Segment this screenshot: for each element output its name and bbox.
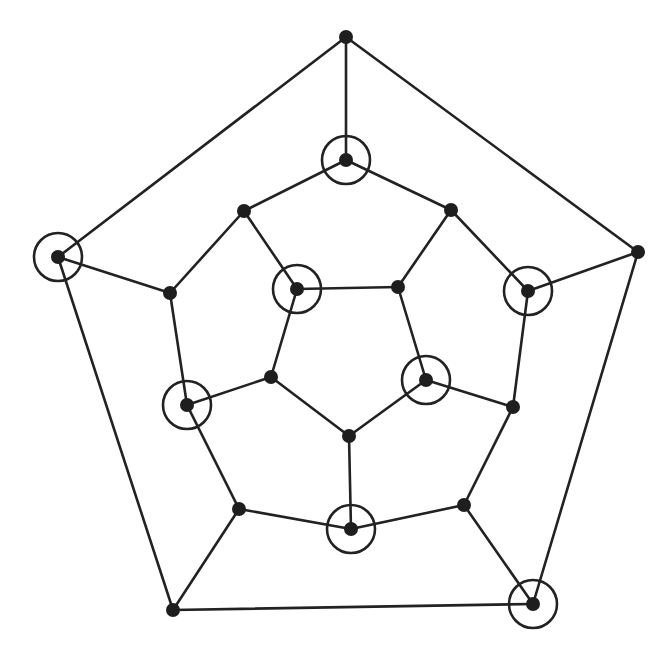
edge-m7-m8 [187,405,239,509]
vertex-m6 [344,522,358,536]
vertex-m3 [521,284,535,298]
edge-m8-m9 [170,293,187,405]
vertex-m2 [444,203,458,217]
vertex-m10 [237,204,251,218]
vertex-i3 [419,373,433,387]
edge-m8-i5 [187,377,271,405]
vertex-i4 [342,429,356,443]
edge-m1-m2 [346,160,451,210]
marked-vertex-rings-layer [34,136,557,628]
edge-i5-i1 [271,289,297,377]
vertex-i2 [391,280,405,294]
edge-o3-o4 [173,604,533,610]
vertex-m1 [339,153,353,167]
edge-m9-m10 [170,211,244,293]
vertex-i5 [264,370,278,384]
edge-m10-i1 [244,211,297,289]
vertex-m5 [457,498,471,512]
edge-m3-m4 [513,291,528,407]
vertex-o4 [166,603,180,617]
edge-o3-m5 [464,505,533,604]
vertex-m9 [163,286,177,300]
edge-i3-i4 [349,380,426,436]
edge-i1-i2 [297,287,398,289]
edge-o4-m7 [173,509,239,610]
edge-i4-i5 [271,377,349,436]
edge-o5-o1 [58,37,346,257]
edge-m2-i2 [398,210,451,287]
vertex-m4 [506,400,520,414]
edge-m2-m3 [451,210,528,291]
edge-m10-m1 [244,160,346,211]
dodecahedron-graph-diagram [0,0,671,652]
vertex-o2 [631,245,645,259]
edge-m4-i3 [426,380,513,407]
edge-i2-i3 [398,287,426,380]
edge-m5-m6 [351,505,464,529]
vertex-i1 [290,282,304,296]
edge-m6-i4 [349,436,351,529]
edge-m4-m5 [464,407,513,505]
edge-o1-o2 [346,37,638,252]
vertex-o3 [526,597,540,611]
vertex-m8 [180,398,194,412]
edge-o2-m3 [528,252,638,291]
vertex-m7 [232,502,246,516]
vertex-o5 [51,250,65,264]
edge-o4-o5 [58,257,173,610]
vertex-o1 [339,30,353,44]
